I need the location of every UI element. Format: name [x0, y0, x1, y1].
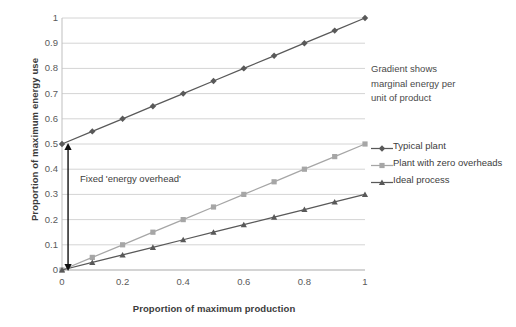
series-1	[59, 141, 367, 272]
x-tick-label: 0.6	[224, 276, 264, 287]
square-marker	[90, 255, 95, 260]
legend-item[interactable]: Plant with zero overheads	[371, 154, 513, 171]
square-marker	[181, 217, 186, 222]
series-0	[59, 15, 368, 147]
diamond-marker	[59, 141, 65, 147]
legend-item[interactable]: Typical plant	[371, 137, 513, 154]
legend-label: Typical plant	[393, 140, 446, 151]
legend-marker-square-icon	[371, 157, 393, 168]
x-axis-title: Proportion of maximum production	[62, 303, 366, 314]
diamond-marker	[89, 128, 95, 134]
diamond-marker	[150, 103, 156, 109]
legend-label: Plant with zero overheads	[393, 157, 502, 168]
diamond-marker	[180, 90, 186, 96]
x-tick-label: 0.8	[284, 276, 324, 287]
overhead-annotation: Fixed 'energy overhead'	[80, 173, 181, 184]
diamond-marker	[301, 40, 307, 46]
square-marker	[272, 179, 277, 184]
diamond-marker	[362, 15, 368, 21]
gradient-annotation: Gradient shows marginal energy per unit …	[371, 62, 509, 106]
x-tick-label: 0.2	[103, 276, 143, 287]
x-tick-label: 0	[42, 276, 82, 287]
legend-label: Ideal process	[393, 174, 450, 185]
diamond-marker	[210, 78, 216, 84]
diamond-marker	[332, 27, 338, 33]
diamond-marker	[241, 65, 247, 71]
series-2	[59, 191, 368, 272]
x-tick-label: 1	[345, 276, 385, 287]
square-marker	[211, 204, 216, 209]
legend-marker-triangle-icon	[371, 174, 393, 185]
square-marker	[379, 163, 384, 168]
chart-container: Proportion of maximum energy use 00.10.2…	[0, 0, 516, 327]
square-marker	[302, 167, 307, 172]
diamond-marker	[119, 116, 125, 122]
square-marker	[120, 242, 125, 247]
gradient-annotation-line-1: Gradient shows	[371, 62, 509, 77]
square-marker	[150, 230, 155, 235]
square-marker	[362, 141, 367, 146]
legend-marker-diamond-icon	[371, 140, 393, 151]
legend-item[interactable]: Ideal process	[371, 171, 513, 188]
diamond-marker	[379, 145, 385, 151]
diamond-marker	[271, 53, 277, 59]
chart-legend: Typical plantPlant with zero overheadsId…	[371, 137, 513, 188]
gradient-annotation-line-3: unit of product	[371, 91, 509, 106]
square-marker	[241, 192, 246, 197]
square-marker	[332, 154, 337, 159]
gradient-annotation-line-2: marginal energy per	[371, 77, 509, 92]
x-tick-label: 0.4	[163, 276, 203, 287]
overhead-arrow	[64, 143, 71, 271]
